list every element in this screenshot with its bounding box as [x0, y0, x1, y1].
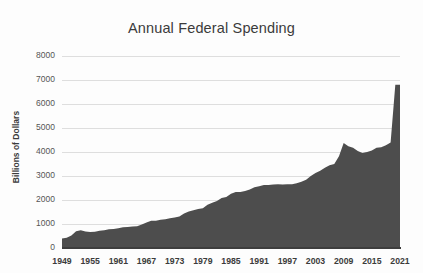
y-tick-label: 3000: [0, 171, 55, 180]
y-tick-label: 0: [0, 243, 55, 252]
y-tick-label: 2000: [0, 195, 55, 204]
y-tick-label: 6000: [0, 99, 55, 108]
area-path: [62, 85, 400, 248]
chart-title: Annual Federal Spending: [0, 20, 423, 36]
plot-area: [62, 56, 400, 248]
x-axis-line: [62, 247, 401, 249]
x-tick-label: 2021: [378, 256, 422, 266]
y-tick-label: 1000: [0, 219, 55, 228]
y-tick-label: 7000: [0, 75, 55, 84]
y-tick-label: 5000: [0, 123, 55, 132]
area-series: [62, 56, 400, 248]
chart-container: Annual Federal Spending Billions of Doll…: [0, 0, 423, 273]
y-tick-label: 4000: [0, 147, 55, 156]
y-tick-label: 8000: [0, 51, 55, 60]
